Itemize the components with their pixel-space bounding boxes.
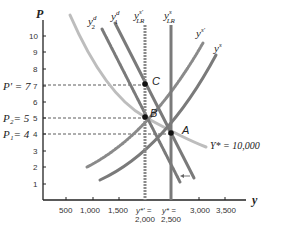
- y-axis-label: P: [36, 7, 44, 21]
- ad-as-diagram: P y 1 2 3 4 5 6 7 8 9 10 P' = 7 P₂= 5 P₁…: [0, 0, 282, 233]
- svg-text:10: 10: [29, 32, 38, 41]
- svg-text:4: 4: [33, 130, 38, 139]
- svg-text:500: 500: [59, 206, 73, 215]
- p-prime-label: P' = 7: [2, 80, 31, 92]
- svg-text:1,500: 1,500: [108, 206, 129, 215]
- svg-text:1: 1: [33, 180, 38, 189]
- svg-text:5: 5: [33, 114, 38, 123]
- svg-text:7: 7: [33, 82, 38, 91]
- svg-text:2,000: 2,000: [135, 215, 156, 224]
- x-axis-label: y: [250, 193, 258, 207]
- point-a-label: A: [181, 124, 189, 136]
- ys-curve: [100, 55, 216, 180]
- x-ticks: 500 1,000 1,500 3,000 3,500 y*' = 2,000 …: [59, 197, 237, 224]
- p1-label: P₁= 4: [2, 128, 30, 140]
- svg-text:3: 3: [33, 147, 38, 156]
- svg-text:2: 2: [33, 163, 38, 172]
- y2d-label: yd2: [87, 14, 97, 31]
- lras-label: ysLR: [163, 8, 176, 25]
- axes: P y: [36, 7, 258, 207]
- point-b-label: B: [150, 107, 157, 119]
- point-b: [142, 114, 148, 120]
- lras-prime-label: ys'LR: [133, 8, 145, 25]
- svg-text:8: 8: [33, 65, 38, 74]
- y2d-curve: [102, 29, 180, 182]
- svg-text:y*' =: y*' =: [135, 206, 152, 215]
- y1d-curve: [115, 23, 194, 178]
- svg-text:9: 9: [33, 48, 38, 57]
- point-a: [168, 130, 174, 136]
- point-c-label: C: [152, 75, 160, 87]
- svg-text:3,500: 3,500: [216, 206, 237, 215]
- shift-arrow-icon: [180, 174, 190, 178]
- price-level-labels: P' = 7 P₂= 5 P₁= 4: [2, 80, 31, 140]
- svg-text:y* =: y* =: [161, 206, 176, 215]
- svg-text:6: 6: [33, 98, 38, 107]
- curve-labels: yd2 yd1 ys'LR ysLR ys' ys Y* = 10,000: [87, 8, 260, 151]
- point-c: [142, 81, 148, 87]
- money-curve-label: Y* = 10,000: [210, 140, 260, 151]
- svg-text:3,000: 3,000: [190, 206, 211, 215]
- svg-text:2,500: 2,500: [161, 215, 182, 224]
- p2-label: P₂= 5: [2, 112, 30, 124]
- y1d-label: yd1: [110, 9, 120, 26]
- ys-label: ys: [213, 41, 222, 54]
- svg-text:1,000: 1,000: [80, 206, 101, 215]
- ys-prime-label: ys': [195, 26, 206, 39]
